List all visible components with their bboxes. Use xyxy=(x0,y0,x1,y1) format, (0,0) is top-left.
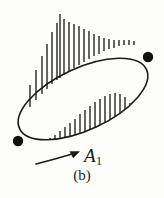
hatch-group-lower-interior xyxy=(33,93,140,152)
area-label-a1: A1 xyxy=(84,146,102,167)
figure-caption: (b) xyxy=(0,168,164,183)
figure-container: A1 (b) xyxy=(0,0,164,198)
marker-right-dot xyxy=(143,52,153,62)
area-label-letter: A xyxy=(84,145,96,166)
area-label-subscript: 1 xyxy=(96,154,102,168)
direction-arrow xyxy=(36,151,80,164)
hatch-group-upper xyxy=(30,14,134,107)
ellipse-outline xyxy=(6,41,159,156)
marker-left-dot xyxy=(13,136,23,146)
